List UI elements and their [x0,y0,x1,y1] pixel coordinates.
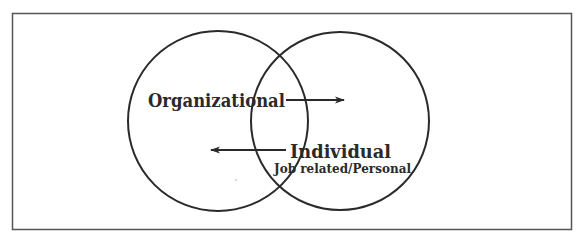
venn-diagram: Organizational Individual Job related/Pe… [0,0,584,240]
organizational-label: Organizational [148,89,285,111]
individual-label: Individual [290,140,391,162]
speck-artifact [235,179,237,181]
individual-sublabel: Job related/Personal [273,160,411,176]
